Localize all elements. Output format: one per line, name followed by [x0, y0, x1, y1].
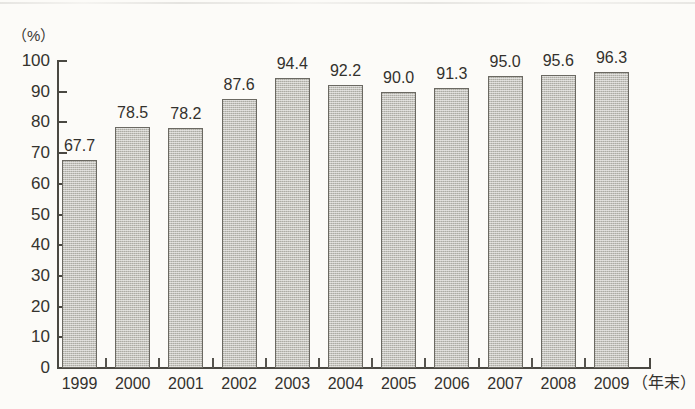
y-axis-tick-label-slot: 30	[0, 267, 50, 284]
y-axis-tick-label-slot: 10	[0, 328, 50, 345]
y-axis-tick-label: 100	[4, 52, 50, 69]
y-axis-tick-label: 30	[4, 267, 50, 284]
bar-group: 67.7	[62, 61, 97, 368]
bar-group: 91.3	[434, 61, 469, 368]
bar	[594, 72, 629, 368]
bar-group: 96.3	[594, 61, 629, 368]
y-axis-tick-label: 80	[4, 113, 50, 130]
y-axis-tick-label-slot: 70	[0, 144, 50, 161]
plot-area: 67.778.578.287.694.492.290.091.395.095.6…	[57, 61, 649, 368]
x-axis-caption: （年末）	[632, 374, 695, 392]
bar-group: 92.2	[328, 61, 363, 368]
y-axis-tick-label: 70	[4, 144, 50, 161]
bar	[62, 160, 97, 368]
bar-group: 78.2	[168, 61, 203, 368]
y-axis-tick-label-slot: 50	[0, 206, 50, 223]
y-axis-tick-label: 40	[4, 236, 50, 253]
y-axis-unit-label: （%）	[12, 24, 55, 45]
bar-value-label: 78.2	[155, 106, 217, 122]
bar-group: 78.5	[115, 61, 150, 368]
y-axis-tick-label-slot: 40	[0, 236, 50, 253]
bar-group: 87.6	[222, 61, 257, 368]
y-axis-tick-label: 10	[4, 328, 50, 345]
bar-group: 95.0	[488, 61, 523, 368]
y-axis-tick-label: 20	[4, 298, 50, 315]
bar	[541, 75, 576, 368]
bar-value-label: 67.7	[49, 138, 111, 154]
y-axis-tick-label-slot: 0	[0, 359, 50, 376]
bar	[275, 78, 310, 368]
bar-value-label: 96.3	[581, 50, 643, 66]
bar	[168, 128, 203, 368]
y-axis-tick-label-slot: 20	[0, 298, 50, 315]
bar	[115, 127, 150, 368]
y-axis-tick-label-slot: 60	[0, 175, 50, 192]
bar	[328, 85, 363, 368]
y-axis-tick-label-slot: 100	[0, 52, 50, 69]
y-axis-tick-label: 90	[4, 83, 50, 100]
bar-chart-figure: （%） 1009080706050403020100 67.778.578.28…	[0, 0, 695, 409]
bar-group: 95.6	[541, 61, 576, 368]
y-axis-tick-label: 0	[4, 359, 50, 376]
bar	[434, 88, 469, 368]
bar-value-label: 87.6	[208, 77, 270, 93]
bar	[222, 99, 257, 368]
bar-group: 90.0	[381, 61, 416, 368]
y-axis-tick-label-slot: 90	[0, 83, 50, 100]
bar	[381, 92, 416, 368]
y-axis-tick-label-slot: 80	[0, 113, 50, 130]
bar	[488, 76, 523, 368]
y-axis-tick-label: 50	[4, 206, 50, 223]
bar-group: 94.4	[275, 61, 310, 368]
x-axis-end-cap	[649, 358, 651, 369]
y-axis-tick-label: 60	[4, 175, 50, 192]
